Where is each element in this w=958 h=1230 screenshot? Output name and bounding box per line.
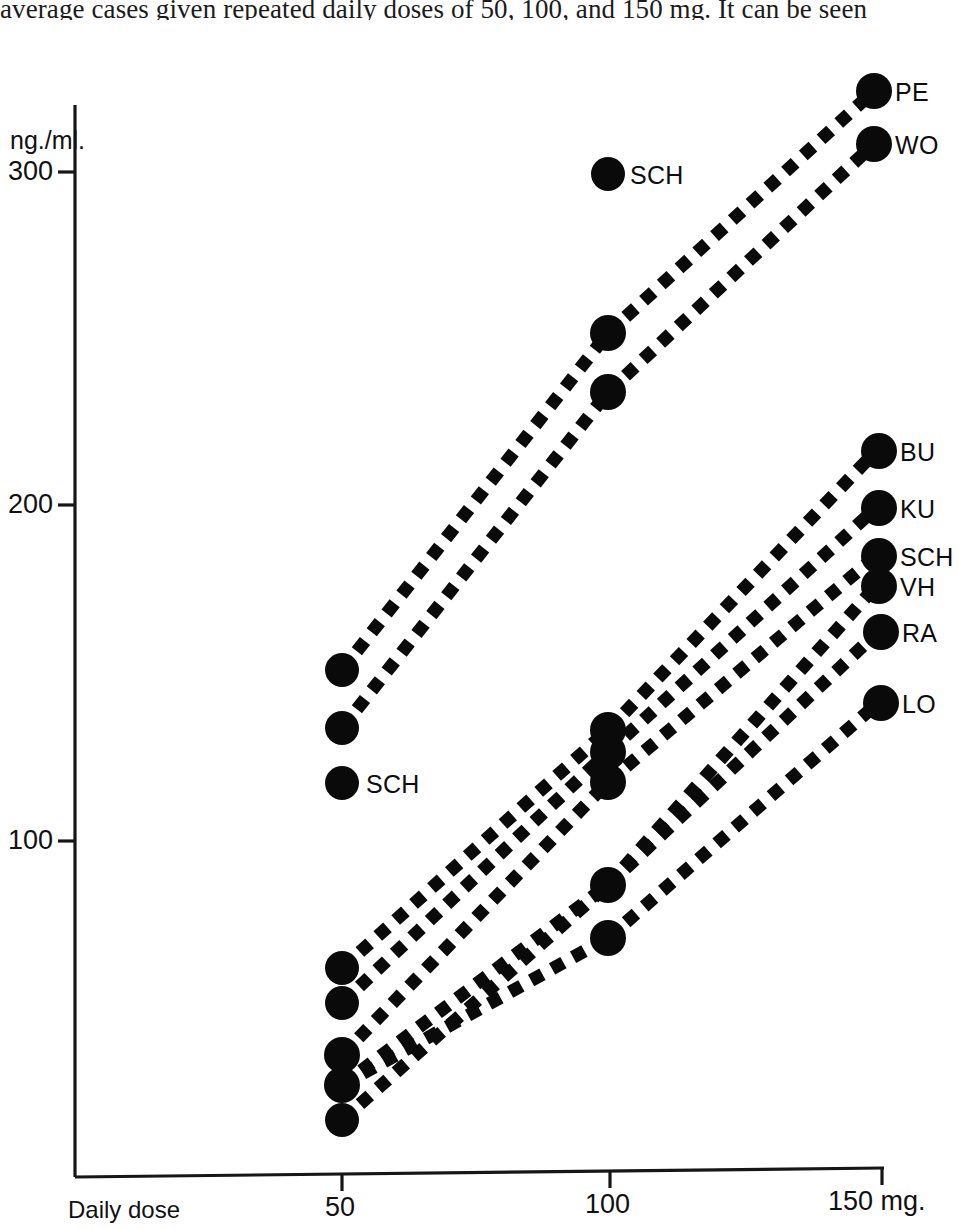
point-label-VH: VH xyxy=(900,573,935,602)
point-label-SCH-150: SCH xyxy=(900,543,954,572)
point-BU-150[interactable] xyxy=(861,433,897,469)
x-tick-label-50: 50 xyxy=(325,1192,355,1223)
figure-plasma-level-chart: ng./ml. 300 200 100 Daily dose 50 100 15… xyxy=(0,0,958,1230)
point-label-PE: PE xyxy=(895,78,929,107)
point-PE-50[interactable] xyxy=(325,653,359,687)
connector-PE-100-150 xyxy=(608,91,874,333)
point-VH-100[interactable] xyxy=(590,867,626,903)
point-SCH-100-unconnected[interactable] xyxy=(591,157,625,191)
y-tick-label-100: 100 xyxy=(8,825,53,856)
point-label-BU: BU xyxy=(900,438,935,467)
point-PE-100[interactable] xyxy=(590,315,626,351)
point-SCHr-100[interactable] xyxy=(590,764,626,800)
point-WO-100[interactable] xyxy=(590,374,626,410)
point-WO-150[interactable] xyxy=(856,126,892,162)
point-KU-50[interactable] xyxy=(325,986,359,1020)
x-tick-label-100: 100 xyxy=(585,1189,630,1220)
point-label-SCH-100: SCH xyxy=(630,161,684,190)
point-WO-50[interactable] xyxy=(325,711,359,745)
y-tick-label-300: 300 xyxy=(8,156,53,187)
x-tick-label-150: 150 mg. xyxy=(828,1186,926,1217)
point-VH-50[interactable] xyxy=(324,1067,360,1103)
x-axis-line xyxy=(75,1168,884,1177)
point-SCH-50-unconnected[interactable] xyxy=(325,766,359,800)
point-LO-50[interactable] xyxy=(325,1103,359,1137)
point-label-RA: RA xyxy=(902,619,937,648)
y-axis-unit-label: ng./ml. xyxy=(10,126,85,155)
point-BU-50[interactable] xyxy=(325,951,359,985)
point-VH-150[interactable] xyxy=(861,568,897,604)
chart-canvas xyxy=(0,0,958,1230)
y-tick-label-200: 200 xyxy=(8,489,53,520)
point-label-WO: WO xyxy=(895,131,939,160)
point-RA-150[interactable] xyxy=(863,614,899,650)
y-axis-ticks xyxy=(58,172,75,841)
point-LO-150[interactable] xyxy=(863,685,899,721)
connector-BU-50-100 xyxy=(342,730,608,968)
point-PE-150[interactable] xyxy=(856,73,892,109)
point-label-SCH-50: SCH xyxy=(366,770,420,799)
point-KU-150[interactable] xyxy=(861,490,897,526)
point-label-LO: LO xyxy=(902,690,936,719)
point-label-KU: KU xyxy=(900,495,935,524)
point-LO-100[interactable] xyxy=(590,920,626,956)
connector-WO-50-100 xyxy=(342,392,608,728)
x-axis-title: Daily dose xyxy=(68,1196,180,1224)
connector-PE-50-100 xyxy=(342,333,608,670)
series-connectors xyxy=(342,91,878,1120)
connector-RA-50-100 xyxy=(342,885,608,1120)
